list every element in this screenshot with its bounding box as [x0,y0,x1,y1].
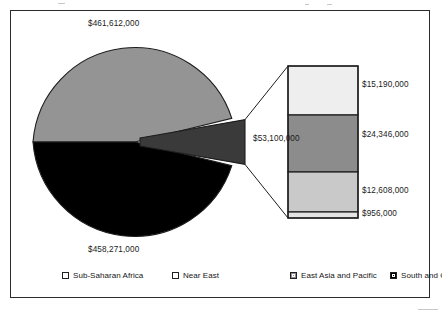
value-label-east-asia-and-pacific: $461,612,000 [88,19,139,28]
chart-legend: Sub-Saharan Africa Near East East Asia a… [62,268,392,282]
legend-item-east-asia-and-pacific: East Asia and Pacific [290,271,390,280]
legend-item-south-and-central-asia: South and Central Asia [390,271,442,280]
callout-segment-western-hemisphere [288,115,358,172]
legend-item-label: Near East [183,271,219,280]
callout-segment-sub-saharan-africa [288,172,358,212]
legend-item-sub-saharan-africa: Sub-Saharan Africa [62,271,172,280]
legend-item-label: East Asia and Pacific [301,271,377,280]
legend-swatch-icon [390,272,397,279]
callout-segment-europe-and-eurasia [288,66,358,115]
legend-swatch-icon [290,272,297,279]
value-label-western-hemisphere: $24,346,000 [362,130,409,139]
chart-figure: $461,612,000 $458,271,000 $53,100,000 $1… [0,0,442,315]
callout-leader-bottom [245,164,288,218]
value-label-exploded-group: $53,100,000 [253,134,300,143]
legend-swatch-icon [172,272,179,279]
legend-item-label: Sub-Saharan Africa [73,271,143,280]
callout-leader-top [245,66,288,120]
callout-segment-near-east [288,212,358,218]
legend-item-near-east: Near East [172,271,290,280]
value-label-south-and-central-asia: $458,271,000 [88,245,139,254]
value-label-sub-saharan-africa: $12,608,000 [362,186,409,195]
value-label-europe-and-eurasia: $15,190,000 [362,80,409,89]
legend-item-label: South and Central Asia [401,271,442,280]
legend-swatch-icon [62,272,69,279]
value-label-near-east: $956,000 [362,209,397,218]
